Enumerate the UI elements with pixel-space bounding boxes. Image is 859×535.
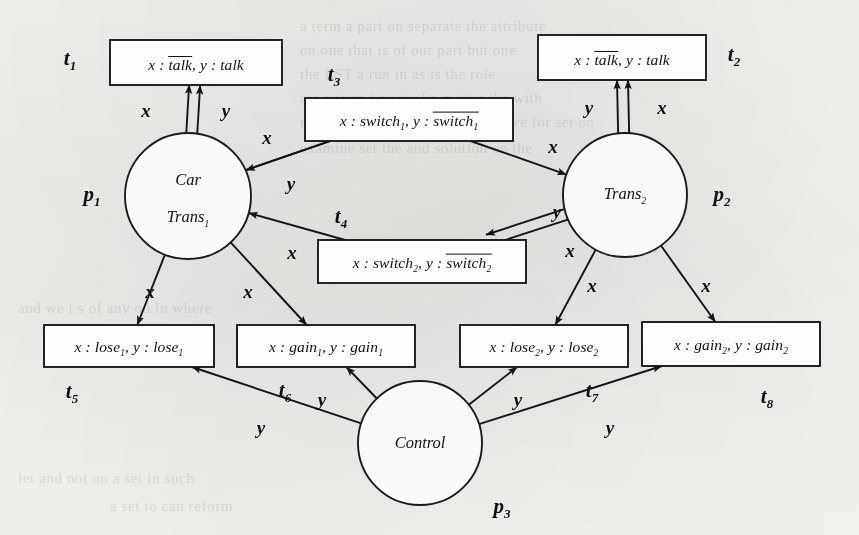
arc-p3-t7 (469, 367, 517, 405)
arc-t4-p1 (249, 213, 346, 240)
transition-t3[interactable] (305, 98, 513, 141)
arc-t3-p2 (471, 141, 567, 175)
arc-p2-t2 (628, 80, 629, 133)
arc-p2-t2 (617, 80, 618, 133)
arc-p1-t5 (137, 255, 165, 325)
place-p1[interactable] (125, 133, 251, 259)
place-p2[interactable] (563, 133, 687, 257)
petri-net-graphics (0, 0, 859, 535)
petri-net-figure: a term a part on separate the attributeo… (0, 0, 859, 535)
transition-t6[interactable] (237, 325, 415, 367)
arc-p2-t4 (486, 209, 564, 235)
arc-p1-t1 (197, 85, 200, 133)
transition-t5[interactable] (44, 325, 214, 367)
place-p3[interactable] (358, 381, 482, 505)
arc-p2-t7 (555, 250, 595, 325)
arc-p1-t6 (231, 242, 307, 325)
arc-p2-t8 (661, 246, 715, 322)
arc-p1-t1 (186, 85, 189, 133)
arc-p3-t5 (192, 367, 361, 423)
transition-t4[interactable] (318, 240, 526, 283)
transition-t8[interactable] (642, 322, 820, 366)
node-layer (44, 35, 820, 505)
arc-p3-t6 (346, 367, 377, 398)
transition-t2[interactable] (538, 35, 706, 80)
transition-t1[interactable] (110, 40, 282, 85)
transition-t7[interactable] (460, 325, 628, 367)
